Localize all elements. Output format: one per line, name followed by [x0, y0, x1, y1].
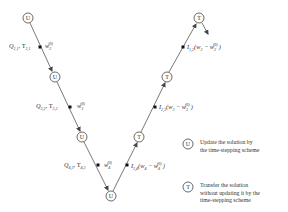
- expr-close: ): [163, 162, 165, 169]
- expr-sup: (0): [185, 102, 190, 107]
- node-t3: T: [194, 13, 204, 23]
- dot-icon: [126, 164, 129, 167]
- w-sup: (0): [80, 101, 85, 106]
- label-q21-t21: Q2,1, T2,1: [9, 43, 31, 51]
- legend-t-line: without updating it by the: [200, 190, 260, 198]
- svg-text:U: U: [53, 74, 58, 80]
- svg-text:T: T: [165, 74, 169, 80]
- dot-icon: [154, 106, 157, 109]
- svg-text:U: U: [109, 193, 114, 199]
- svg-text:T: T: [186, 184, 190, 190]
- label-i34: I3,4(w4 − w4(0)): [131, 162, 167, 171]
- w-sub: 3: [81, 106, 83, 111]
- w-sub: 4: [108, 165, 110, 170]
- w-sub: 2: [49, 46, 51, 51]
- dot-icon: [97, 164, 100, 167]
- label-q32-t32: Q3,2, T3,2: [36, 103, 58, 111]
- svg-text:U: U: [80, 134, 85, 140]
- svg-text:T: T: [137, 134, 141, 140]
- expr-close: ): [191, 103, 193, 110]
- legend-u-node: U: [183, 139, 193, 149]
- node-u1: U: [23, 13, 33, 23]
- label-i23: I2,3(w3 − w3(0)): [159, 103, 195, 112]
- edge-t3-out: [202, 23, 208, 34]
- legend-t-line: time-stepping scheme: [200, 197, 260, 205]
- w-sup: (0): [48, 41, 53, 46]
- label-w3: w3(0): [77, 102, 88, 111]
- expr-sub: 2: [214, 47, 216, 52]
- svg-text:U: U: [186, 141, 191, 147]
- expr-close: ): [219, 43, 221, 50]
- node-u4: U: [106, 191, 116, 201]
- label-q43-t43: Q4,3, T4,3: [64, 162, 86, 170]
- legend-t-description: Transfer the solution without updating i…: [200, 182, 260, 205]
- expr-sup: (0): [213, 42, 218, 47]
- legend-u-description: Update the solution by the time-stepping…: [200, 139, 259, 154]
- label-w4: w4(0): [104, 161, 115, 170]
- node-t1: T: [134, 132, 144, 142]
- label-i12: I1,2(w2 − w2(0)): [187, 43, 223, 52]
- expr-sub: 3: [186, 107, 188, 112]
- legend-u-line: the time-stepping scheme: [200, 147, 259, 155]
- w-sup: (0): [107, 160, 112, 165]
- legend-t-line: Transfer the solution: [200, 182, 260, 190]
- t-sub: 3,2: [53, 106, 58, 111]
- dot-icon: [39, 46, 42, 49]
- legend-t-node: T: [183, 182, 193, 192]
- legend-u-line: Update the solution by: [200, 139, 259, 147]
- expr-sub: 4: [158, 166, 160, 171]
- node-u2: U: [50, 72, 60, 82]
- node-t2: T: [162, 72, 172, 82]
- dot-icon: [182, 46, 185, 49]
- dot-icon: [69, 106, 72, 109]
- expr-sup: (0): [157, 161, 162, 166]
- label-w2: w2(0): [45, 42, 56, 51]
- node-u3: U: [77, 132, 87, 142]
- svg-text:U: U: [26, 15, 31, 21]
- t-sub: 4,3: [81, 165, 86, 170]
- svg-text:T: T: [197, 15, 201, 21]
- t-sub: 2,1: [26, 46, 31, 51]
